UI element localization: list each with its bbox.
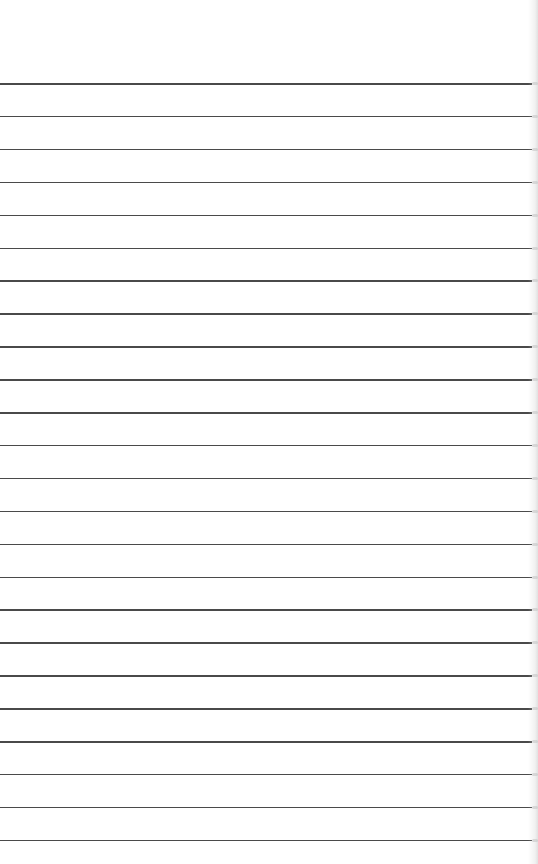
ruled-line [0, 313, 532, 315]
ruled-line [0, 807, 532, 809]
ruled-line [0, 642, 532, 644]
ruled-line [0, 116, 532, 118]
ruled-line [0, 577, 532, 579]
ruled-line [0, 675, 532, 677]
ruled-line [0, 280, 532, 282]
ruled-line [0, 412, 532, 414]
ruled-line [0, 379, 532, 381]
lined-paper-page [0, 0, 538, 864]
ruled-line [0, 478, 532, 480]
ruled-line [0, 708, 532, 710]
ruled-line [0, 182, 532, 184]
ruled-line [0, 215, 532, 217]
ruled-line [0, 544, 532, 546]
page-edge-shadow [528, 0, 538, 864]
ruled-line [0, 774, 532, 776]
ruled-line [0, 511, 532, 513]
ruled-line [0, 741, 532, 743]
ruled-line [0, 149, 532, 151]
ruled-line [0, 840, 532, 842]
ruled-line [0, 445, 532, 447]
ruled-line [0, 83, 532, 85]
ruled-line [0, 248, 532, 250]
ruled-line [0, 609, 532, 611]
ruled-line [0, 346, 532, 348]
